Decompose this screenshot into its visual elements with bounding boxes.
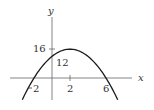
x-tick-label-neg2: 2 <box>33 83 39 94</box>
x-axis-label: x <box>138 72 144 83</box>
x-tick-label-2: 2 <box>67 83 73 94</box>
x-tick-label-6: 6 <box>103 83 109 94</box>
intercept-label-12: 12 <box>56 57 69 68</box>
parabola-chart: y x 16 12 2 2 6 <box>0 0 154 110</box>
y-axis-label: y <box>47 5 54 16</box>
y-tick-label-16: 16 <box>33 43 46 54</box>
